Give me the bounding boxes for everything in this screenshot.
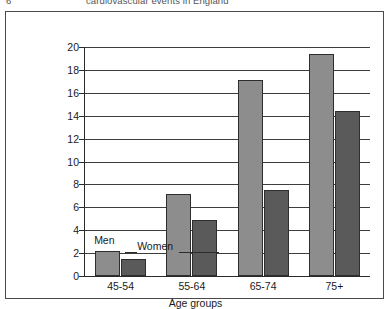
bar-women-75+ xyxy=(335,111,360,276)
x-axis-title: Age groups xyxy=(6,297,385,309)
bar-women-45-54 xyxy=(121,259,146,276)
annotation-women: Women xyxy=(137,240,173,252)
y-axis-tick-label: 18 xyxy=(67,65,79,76)
bar-men-45-54 xyxy=(95,251,120,276)
figure-caption-text: cardiovascular events in England xyxy=(86,0,229,6)
y-axis-title: Percent who have experienced a cardiovas… xyxy=(0,0,13,48)
annotation-men: Men xyxy=(94,234,114,246)
y-axis-tick-label: 14 xyxy=(67,110,79,121)
annotation-leader-line-women-left xyxy=(125,252,137,253)
x-axis-tick-label: 65-74 xyxy=(250,280,277,292)
y-axis-tick-label: 12 xyxy=(67,133,79,144)
x-axis-tick-label: 75+ xyxy=(325,280,343,292)
chart-frame: Percent who have experienced a cardiovas… xyxy=(5,11,384,299)
x-axis-tick-label: 45-54 xyxy=(107,280,134,292)
bar-men-75+ xyxy=(309,54,334,276)
y-axis-tick-label: 20 xyxy=(67,42,79,53)
figure-caption-strip: 6 cardiovascular events in England xyxy=(0,0,390,11)
plot-area: MenWomen xyxy=(85,47,370,276)
y-axis-title-line2: a cardiovascular event xyxy=(0,0,8,48)
bar-group xyxy=(299,47,370,276)
annotation-leader-line-women-right xyxy=(179,252,219,253)
y-axis-tick-labels: 02468101214161820 xyxy=(47,47,79,276)
x-axis-tick-label: 55-64 xyxy=(178,280,205,292)
bar-men-55-64 xyxy=(166,194,191,276)
y-axis-tick-label: 10 xyxy=(67,156,79,167)
bar-women-55-64 xyxy=(192,220,217,276)
bar-men-65-74 xyxy=(238,80,263,276)
y-axis-tick-label: 16 xyxy=(67,88,79,99)
bar-women-65-74 xyxy=(264,190,289,276)
bar-group xyxy=(228,47,299,276)
x-axis-line xyxy=(85,276,370,277)
